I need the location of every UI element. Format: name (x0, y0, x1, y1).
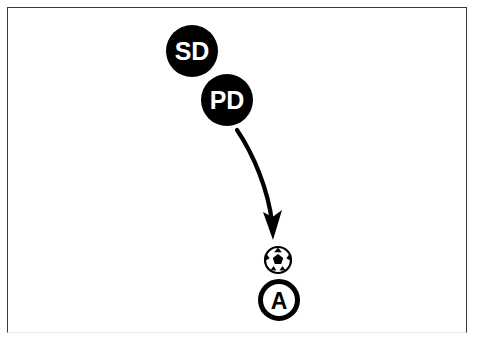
player-token-pd-label: PD (210, 86, 245, 114)
player-token-a-label: A (271, 288, 288, 314)
player-token-sd[interactable]: SD (166, 25, 218, 77)
player-token-a[interactable]: A (261, 282, 298, 319)
player-token-sd-label: SD (175, 37, 210, 65)
soccer-ball-icon (265, 247, 291, 273)
pass-arrow (237, 130, 282, 240)
pass-arrow-shaft (237, 130, 272, 222)
player-token-pd[interactable]: PD (201, 74, 253, 126)
diagram-graphics: SD PD A (0, 0, 478, 340)
diagram-canvas: SD PD A (0, 0, 478, 340)
